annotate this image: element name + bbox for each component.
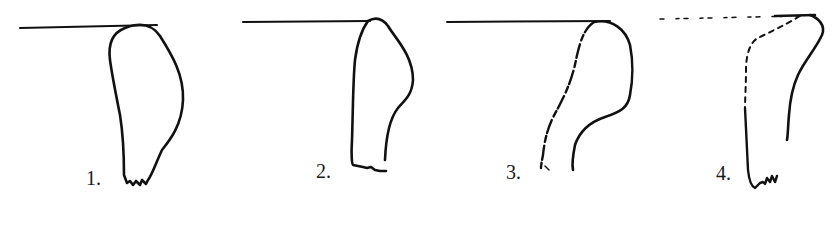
baseline-3 — [447, 21, 610, 22]
panel-2: 2. — [243, 19, 413, 182]
panel-1: 1. — [20, 25, 183, 189]
panel-label-3: 3. — [506, 161, 521, 183]
outline-shape-3-left — [541, 22, 594, 168]
outline-shape-2 — [352, 19, 413, 171]
baseline-2 — [243, 21, 370, 22]
panel-label-4: 4. — [716, 162, 731, 184]
panel-4: 4. — [660, 15, 823, 188]
outline-shape-4-right — [787, 15, 823, 140]
outline-shape-1 — [110, 25, 184, 185]
outline-figure: 1. 2. 3. 4. — [0, 0, 839, 228]
outline-shape-3-fragment — [545, 166, 549, 170]
panel-label-1: 1. — [86, 167, 101, 189]
outline-shape-4-lower-left — [745, 108, 777, 188]
panel-3: 3. — [447, 21, 632, 183]
panel-label-2: 2. — [316, 160, 331, 182]
outline-shape-3-right — [573, 21, 633, 170]
